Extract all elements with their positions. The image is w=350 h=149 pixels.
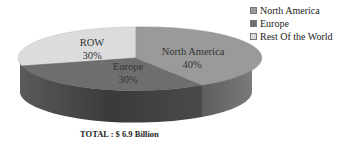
legend-item-rest-of-world: Rest Of the World (250, 30, 333, 43)
label-north-america-pct: 40% (182, 59, 202, 70)
legend-item-north-america: North America (250, 4, 333, 17)
label-europe-pct: 30% (118, 74, 138, 85)
legend-label: North America (260, 4, 320, 17)
label-row-pct: 30% (82, 50, 102, 61)
label-north-america-name: North America (162, 46, 225, 57)
legend-swatch-north-america (250, 7, 257, 14)
label-row-name: ROW (80, 37, 105, 48)
total-annotation: TOTAL : $ 6.9 Billion (80, 129, 159, 139)
legend-swatch-rest-of-world (250, 33, 257, 40)
legend-item-europe: Europe (250, 17, 333, 30)
label-europe-name: Europe (113, 61, 144, 72)
legend-label: Europe (260, 17, 289, 30)
legend-label: Rest Of the World (260, 30, 333, 43)
legend-swatch-europe (250, 20, 257, 27)
chart-legend: North America Europe Rest Of the World (250, 4, 333, 43)
